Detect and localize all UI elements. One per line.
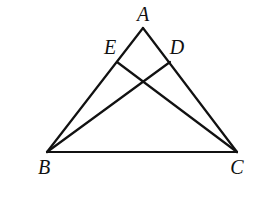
- point-label-b: B: [38, 156, 50, 178]
- point-label-c: C: [230, 156, 244, 178]
- side-AB: [47, 28, 143, 152]
- side-AC: [143, 28, 237, 152]
- point-label-e: E: [103, 36, 116, 58]
- triangle-diagram: ABCDE: [0, 0, 260, 199]
- point-label-a: A: [135, 3, 150, 25]
- point-label-d: D: [169, 36, 185, 58]
- segment-BD: [47, 62, 170, 152]
- segment-CE: [117, 62, 237, 152]
